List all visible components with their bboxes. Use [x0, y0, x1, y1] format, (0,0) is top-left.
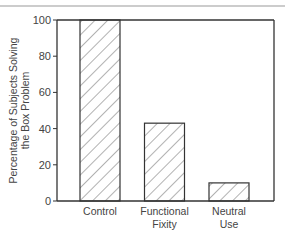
y-tick-label: 40	[39, 123, 51, 135]
y-tick-label: 0	[45, 195, 51, 207]
y-axis-title-line: the Box Problem	[19, 71, 31, 149]
y-tick-label: 20	[39, 159, 51, 171]
bars-group	[80, 20, 249, 201]
bar-control	[80, 20, 120, 201]
y-tick-label: 80	[39, 50, 51, 62]
x-category-label: Neutral	[212, 205, 246, 217]
y-tick-label: 60	[39, 86, 51, 98]
y-axis-title: Percentage of Subjects Solvingthe Box Pr…	[7, 37, 31, 183]
y-axis-ticks: 020406080100	[33, 14, 57, 207]
x-category-label: Fixity	[152, 218, 177, 230]
x-category-label: Control	[83, 205, 117, 217]
x-category-label: Functional	[140, 205, 188, 217]
y-tick-label: 100	[33, 14, 51, 26]
x-axis-labels: ControlFunctionalFixityNeutralUse	[83, 205, 246, 230]
bar-functional-fixity	[145, 123, 185, 201]
y-axis-title-line: Percentage of Subjects Solving	[7, 37, 19, 183]
x-category-label: Use	[220, 218, 239, 230]
bar-chart: 020406080100 ControlFunctionalFixityNeut…	[0, 0, 285, 236]
bar-neutral-use	[209, 183, 249, 201]
